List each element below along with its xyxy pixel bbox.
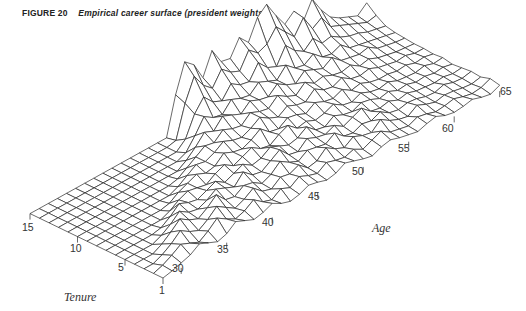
age-tick-label: 45 [308, 190, 320, 202]
tenure-tick-label: 15 [22, 221, 34, 233]
age-axis-title: Age [372, 221, 391, 236]
tenure-tick-label: 1 [159, 284, 165, 296]
tenure-tick-label: 5 [118, 261, 124, 273]
age-tick-label: 60 [442, 122, 454, 134]
career-surface-plot [0, 0, 526, 311]
age-tick-label: 55 [398, 142, 410, 154]
tenure-axis-title: Tenure [64, 290, 96, 305]
age-tick-label: 40 [262, 216, 274, 228]
age-tick-label: 65 [500, 85, 512, 97]
age-tick-label: 35 [217, 243, 229, 255]
age-tick-label: 50 [352, 165, 364, 177]
tenure-tick-label: 10 [70, 242, 82, 254]
age-tick-label: 30 [172, 262, 184, 274]
